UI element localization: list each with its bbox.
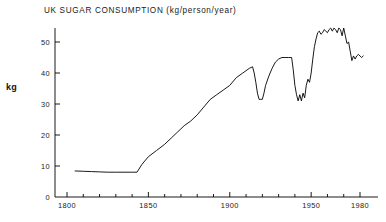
y-tick-label: 40 [41,69,50,78]
x-axis: 18001850190019501980 [58,192,378,210]
x-tick-label: 1850 [139,201,157,210]
x-tick-label: 1980 [351,201,369,210]
x-tick-label: 1800 [58,201,76,210]
chart-container: UK SUGAR CONSUMPTION (kg/person/year) kg… [0,0,386,222]
y-tick-label: 20 [41,131,50,140]
y-tick-label: 50 [41,38,50,47]
x-tick-label: 1900 [221,201,239,210]
data-line [75,28,363,172]
y-tick-label: 30 [41,100,50,109]
x-tick-label: 1950 [302,201,320,210]
y-tick-label: 10 [41,162,50,171]
data-series-group [75,28,363,172]
plot-area: 01020304050 18001850190019501980 [0,0,386,222]
y-tick-label: 0 [45,193,50,202]
y-axis: 01020304050 [41,28,60,202]
